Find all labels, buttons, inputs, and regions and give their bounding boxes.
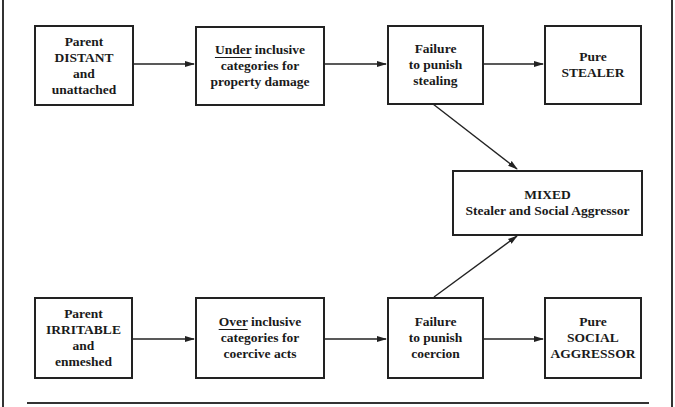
node-under-inclusive: Under inclusive categories for property …	[195, 26, 325, 106]
node-text-line1: Under inclusive	[215, 42, 305, 58]
node-text: Parent	[65, 34, 104, 50]
node-text: categories for	[221, 58, 299, 74]
node-text: SOCIAL	[567, 330, 619, 346]
node-text: Stealer and Social Aggressor	[465, 203, 629, 219]
node-pure-aggressor: Pure SOCIAL AGGRESSOR	[544, 297, 642, 379]
node-parent-irritable: Parent IRRITABLE and enmeshed	[34, 297, 133, 379]
node-pure-stealer: Pure STEALER	[544, 25, 642, 105]
node-text: enmeshed	[55, 354, 112, 370]
node-text: DISTANT	[54, 50, 113, 66]
node-parent-distant: Parent DISTANT and unattached	[34, 25, 134, 106]
node-text: Failure	[415, 41, 457, 57]
node-over-inclusive: Over inclusive categories for coercive a…	[195, 297, 325, 379]
node-fail-coercion: Failure to punish coercion	[387, 297, 484, 379]
node-mixed: MIXED Stealer and Social Aggressor	[452, 170, 643, 236]
node-text: to punish	[409, 330, 463, 346]
node-text: Pure	[579, 314, 607, 330]
node-text: and	[73, 338, 95, 354]
node-text-line1: Over inclusive	[219, 314, 302, 330]
node-text: Parent	[64, 306, 103, 322]
node-text: IRRITABLE	[46, 322, 121, 338]
node-text: MIXED	[524, 187, 571, 203]
edge-fail-stealing-to-mixed	[433, 104, 517, 169]
node-text: to punish	[409, 57, 463, 73]
node-text: STEALER	[561, 65, 624, 81]
node-text: Pure	[579, 49, 607, 65]
node-text: inclusive	[248, 314, 302, 329]
node-text: inclusive	[251, 42, 305, 57]
node-text: coercive acts	[224, 346, 297, 362]
node-text: stealing	[413, 73, 457, 89]
node-text: Failure	[415, 314, 457, 330]
node-text: categories for	[221, 330, 299, 346]
node-text: property damage	[210, 74, 309, 90]
node-text: unattached	[52, 82, 117, 98]
underlined-word: Over	[219, 314, 248, 329]
edge-fail-coercion-to-mixed	[434, 236, 517, 297]
node-fail-stealing: Failure to punish stealing	[387, 25, 484, 105]
node-text: AGGRESSOR	[551, 346, 636, 362]
node-text: coercion	[411, 346, 459, 362]
node-text: and	[73, 66, 95, 82]
underlined-word: Under	[215, 42, 252, 57]
